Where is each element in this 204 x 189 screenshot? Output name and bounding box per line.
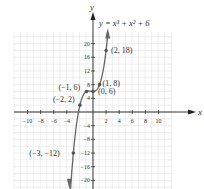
y-axis-arrow-icon — [91, 12, 96, 20]
y-tick-label: 12 — [84, 68, 90, 74]
y-axis-label: y — [89, 2, 94, 12]
data-point — [72, 151, 76, 155]
x-tick-label: 2 — [105, 118, 108, 124]
point-label: (0, 6) — [98, 87, 116, 96]
y-tick-label: −4 — [84, 123, 90, 129]
x-tick-label: −6 — [51, 118, 57, 124]
x-tick-label: −10 — [23, 118, 32, 124]
y-tick-label: −12 — [81, 150, 90, 156]
x-tick-label: 10 — [156, 118, 162, 124]
point-label: (−3, −12) — [29, 149, 60, 158]
x-axis-label: x — [197, 107, 202, 117]
point-label: (1, 8) — [103, 79, 121, 88]
x-tick-label: 6 — [131, 118, 134, 124]
y-tick-label: −16 — [81, 164, 90, 170]
x-tick-label: 8 — [144, 118, 147, 124]
y-tick-label: −20 — [81, 177, 90, 183]
y-tick-label: 8 — [87, 82, 90, 88]
function-equation: y = x³ + x² + 6 — [98, 18, 150, 28]
y-tick-label: 16 — [84, 54, 90, 60]
data-point — [104, 49, 108, 53]
function-graph: xyy = x³ + x² + 6−10−8−6−424681020161284… — [0, 0, 204, 189]
point-label: (−1, 6) — [58, 83, 80, 92]
x-axis-arrow-icon — [188, 110, 196, 115]
data-point — [78, 103, 82, 107]
point-label: (2, 18) — [111, 46, 133, 55]
x-tick-label: 4 — [118, 118, 121, 124]
x-tick-label: −8 — [37, 118, 43, 124]
plot-area: xyy = x³ + x² + 6−10−8−6−424681020161284… — [0, 0, 204, 189]
point-label: (−2, 2) — [53, 95, 75, 104]
data-point — [85, 90, 89, 94]
y-tick-label: −8 — [84, 136, 90, 142]
y-tick-label: 4 — [87, 95, 90, 101]
data-point — [91, 90, 95, 94]
y-tick-label: 20 — [84, 41, 90, 47]
x-tick-label: −4 — [64, 118, 70, 124]
data-point — [98, 83, 102, 87]
